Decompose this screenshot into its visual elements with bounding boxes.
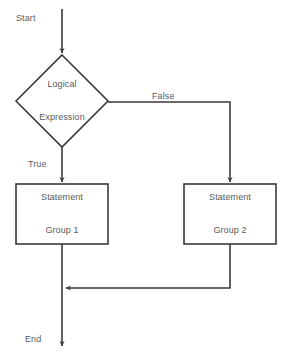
- group2-merge-line: [66, 244, 230, 288]
- start-label: Start: [16, 13, 36, 24]
- statement-group-1-line-1: Statement: [41, 192, 83, 203]
- edge-label-false: False: [152, 91, 175, 102]
- statement-group-2-line-1: Statement: [209, 192, 251, 203]
- statement-group-1-line-2: Group 1: [41, 225, 83, 236]
- flowchart-diagram: Start Logical Expression True False Stat…: [0, 0, 286, 361]
- statement-group-2-label: Statement Group 2: [209, 170, 251, 258]
- end-label: End: [25, 334, 41, 345]
- decision-label-line-2: Expression: [39, 112, 85, 123]
- decision-node-label: Logical Expression: [39, 57, 85, 145]
- statement-group-1-label: Statement Group 1: [41, 170, 83, 258]
- statement-group-2-line-2: Group 2: [209, 225, 251, 236]
- decision-label-line-1: Logical: [39, 79, 85, 90]
- edge-label-true: True: [28, 159, 47, 170]
- edge-group2-to-merge: [66, 244, 230, 288]
